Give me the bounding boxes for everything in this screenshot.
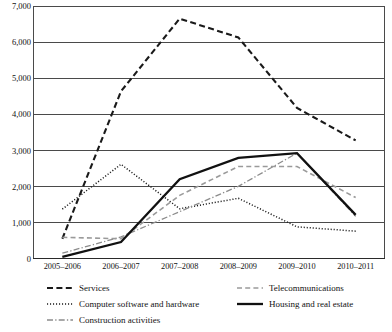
x-axis-tick-label: 2010–2011 — [321, 262, 391, 272]
y-axis: 01,0002,0003,0004,0005,0006,0007,000 — [0, 0, 31, 265]
y-axis-tick-label: 5,000 — [1, 74, 31, 83]
x-axis: 2005–20062006–20072007–20082008–20092009… — [33, 262, 385, 276]
legend-item-label: Housing and real estate — [269, 299, 353, 309]
y-axis-tick-label: 4,000 — [1, 110, 31, 119]
legend-item[interactable]: Services — [46, 281, 110, 295]
legend-item[interactable]: Telecommunications — [236, 281, 344, 295]
series-line-services — [62, 19, 355, 239]
legend-item-label: Services — [79, 283, 110, 293]
legend-item-label: Computer software and hardware — [79, 299, 199, 309]
chart-figure: 01,0002,0003,0004,0005,0006,0007,000 200… — [0, 0, 392, 332]
plot-border — [34, 7, 385, 259]
line-chart-canvas — [33, 6, 385, 259]
series-line-housing-and-real-estate — [62, 153, 355, 257]
legend-item-label: Telecommunications — [269, 283, 344, 293]
legend-item[interactable]: Construction activities — [46, 313, 160, 327]
y-axis-tick-label: 1,000 — [1, 219, 31, 228]
series-line-telecommunications — [62, 166, 355, 238]
legend-item[interactable]: Computer software and hardware — [46, 297, 199, 311]
legend-line-swatch — [236, 283, 264, 293]
legend-line-swatch — [46, 283, 74, 293]
y-axis-tick-label: 7,000 — [1, 2, 31, 11]
legend-item-label: Construction activities — [79, 315, 160, 325]
legend-item[interactable]: Housing and real estate — [236, 297, 353, 311]
plot-area — [33, 6, 385, 259]
y-axis-tick-label: 2,000 — [1, 183, 31, 192]
chart-legend: ServicesComputer software and hardwareCo… — [0, 281, 392, 332]
legend-line-swatch — [236, 299, 264, 309]
legend-line-swatch — [46, 315, 74, 325]
y-axis-tick-label: 6,000 — [1, 38, 31, 47]
y-axis-tick-label: 3,000 — [1, 147, 31, 156]
legend-line-swatch — [46, 299, 74, 309]
